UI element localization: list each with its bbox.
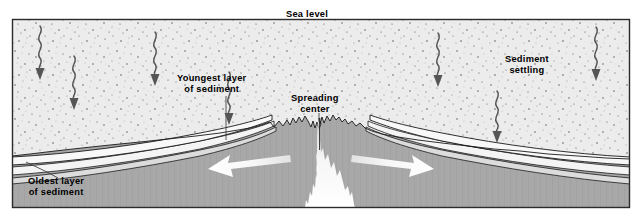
sea-level-label: Sea level [286, 9, 328, 20]
figure-canvas: Sea level Youngest layer of sediment Spr… [0, 0, 641, 224]
sediment-settling-label: Sediment settling [505, 54, 549, 76]
spreading-center-label: Spreading center [291, 93, 339, 115]
youngest-layer-label: Youngest layer of sediment [177, 73, 246, 95]
oldest-layer-label: Oldest layer of sediment [28, 176, 84, 198]
